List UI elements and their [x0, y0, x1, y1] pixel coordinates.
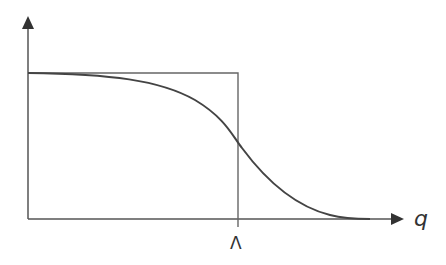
smooth-cutoff-curve [28, 73, 370, 219]
x-axis-label: q [414, 206, 428, 231]
x-axis-arrowhead [391, 213, 404, 225]
sharp-cutoff-step [28, 73, 238, 219]
cutoff-label: Λ [230, 233, 242, 253]
y-axis-arrowhead [22, 16, 34, 29]
diagram-canvas [0, 0, 446, 265]
